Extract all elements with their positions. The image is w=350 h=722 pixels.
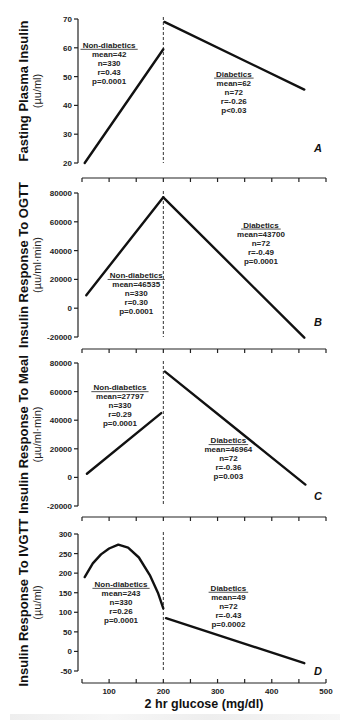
annotation-stat: mean=62 — [217, 79, 252, 88]
panel-letter: D — [314, 665, 322, 677]
annotation-stat: n=330 — [110, 598, 133, 607]
annotation-stat: p=0.003 — [214, 472, 244, 481]
y-axis-unit: (µu/ml) — [31, 585, 43, 619]
annotation-stat: r=0.26 — [109, 607, 133, 616]
annotation-stat: r=-0.43 — [215, 611, 242, 620]
figure: 203040506070Fasting Plasma Insulin(µu/ml… — [0, 0, 350, 722]
y-axis-unit: (µu/ml) — [31, 74, 43, 108]
annotation-title: Diabetics — [211, 436, 247, 445]
y-tick-label: -20000 — [47, 333, 72, 342]
y-tick-label: 60 — [63, 44, 72, 53]
annotation-stat: n=330 — [109, 401, 132, 410]
annotation-stat: p=0.0002 — [211, 620, 246, 629]
y-axis-label: Fasting Plasma Insulin — [16, 21, 31, 162]
y-tick-label: -20000 — [47, 502, 72, 511]
annotation-stat: mean=243 — [102, 589, 141, 598]
series-line-non-diabetics — [85, 49, 164, 163]
annotation-stat: mean=27797 — [96, 392, 144, 401]
series-line-diabetics — [163, 197, 304, 337]
annotation-stat: n=72 — [219, 454, 238, 463]
y-tick-label: 0 — [68, 647, 73, 656]
annotation-title: Non-diabetics — [110, 271, 163, 280]
annotation-stat: p=0.0001 — [92, 77, 127, 86]
x-tick-label: 200 — [157, 687, 171, 696]
x-axis-label: 2 hr glucose (mg/dl) — [145, 697, 264, 711]
annotation-stat: n=330 — [125, 289, 148, 298]
y-axis-unit: (µu/ml·min) — [31, 407, 43, 463]
annotation-stat: r=0.30 — [125, 298, 149, 307]
y-tick-label: -50 — [60, 667, 72, 676]
y-tick-label: 20 — [63, 159, 72, 168]
annotation-stat: p=0.0001 — [103, 419, 138, 428]
annotation-stat: r=-0.36 — [215, 463, 242, 472]
annotation-stat: r=-0.49 — [248, 248, 275, 257]
y-tick-label: 0 — [68, 304, 73, 313]
y-tick-label: 80000 — [50, 359, 73, 368]
annotation-stat: n=330 — [98, 59, 121, 68]
y-tick-label: 60000 — [50, 218, 73, 227]
annotation-title: Diabetics — [211, 584, 247, 593]
annotation-stat: mean=46964 — [204, 445, 252, 454]
y-tick-label: 40 — [63, 101, 72, 110]
y-tick-label: 20000 — [50, 445, 73, 454]
y-tick-label: 50 — [63, 628, 72, 637]
y-tick-label: 150 — [59, 589, 73, 598]
panel-letter: A — [313, 142, 322, 154]
caption-fragment — [10, 714, 340, 720]
annotation-stat: p=0.0001 — [244, 257, 279, 266]
annotation-stat: mean=42 — [92, 50, 127, 59]
y-axis-label: Insulin Response To OGTT — [16, 182, 31, 348]
panel-c: -20000020000400006000080000Insulin Respo… — [16, 349, 326, 514]
y-tick-label: 0 — [68, 473, 73, 482]
y-tick-label: 40000 — [50, 416, 73, 425]
y-tick-label: 70 — [63, 15, 72, 24]
annotation-stat: p=0.0001 — [104, 616, 139, 625]
panel-letter: B — [314, 316, 322, 328]
annotation-stat: mean=46535 — [112, 280, 160, 289]
annotation-stat: r=0.29 — [108, 410, 132, 419]
panel-b: -20000020000400006000080000Insulin Respo… — [16, 178, 326, 348]
annotation-title: Non-diabetics — [95, 580, 148, 589]
y-tick-label: 60000 — [50, 388, 73, 397]
annotation-stat: n=72 — [219, 602, 238, 611]
y-tick-label: 30 — [63, 130, 72, 139]
annotation-title: Non-diabetics — [94, 383, 147, 392]
annotation-title: Diabetics — [243, 221, 279, 230]
annotation-stat: p=0.0001 — [119, 307, 154, 316]
annotation-stat: r=0.43 — [97, 68, 121, 77]
annotation-stat: mean=43700 — [237, 230, 285, 239]
y-tick-label: 300 — [59, 530, 73, 539]
y-axis-label: Insulin Response To IVGTT — [16, 518, 31, 686]
annotation-stat: mean=49 — [211, 593, 246, 602]
annotation-stat: p<0.03 — [221, 106, 247, 115]
panel-a: 203040506070Fasting Plasma Insulin(µu/ml… — [16, 15, 322, 168]
annotation-title: Non-diabetics — [83, 41, 136, 50]
panel-d: -50050100150200250300Insulin Response To… — [16, 517, 333, 711]
y-tick-label: 100 — [59, 608, 73, 617]
annotation-stat: n=72 — [225, 88, 244, 97]
y-axis-label: Insulin Response To Meal — [16, 355, 31, 514]
x-tick-label: 400 — [265, 687, 279, 696]
x-tick-label: 500 — [319, 687, 333, 696]
y-axis-unit: (µu/ml·min) — [31, 237, 43, 293]
x-tick-label: 100 — [102, 687, 116, 696]
y-tick-label: 250 — [59, 550, 73, 559]
y-tick-label: 40000 — [50, 247, 73, 256]
annotation-title: Diabetics — [216, 70, 252, 79]
panel-letter: C — [314, 490, 323, 502]
y-tick-label: 200 — [59, 569, 73, 578]
y-tick-label: 20000 — [50, 275, 73, 284]
y-tick-label: 80000 — [50, 189, 73, 198]
x-tick-label: 300 — [211, 687, 225, 696]
annotation-stat: n=72 — [252, 239, 271, 248]
y-tick-label: 50 — [63, 73, 72, 82]
annotation-stat: r=-0.26 — [221, 97, 248, 106]
